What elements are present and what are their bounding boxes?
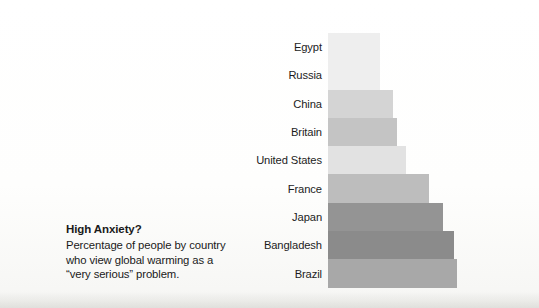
bar-row: France	[0, 174, 328, 202]
bar-russia	[328, 61, 380, 89]
scan-edge-shadow	[0, 292, 539, 308]
bar-row: Russia	[0, 61, 328, 89]
bar-label-united-states: United States	[0, 154, 328, 166]
caption-line-3: “very serious” problem.	[66, 267, 241, 282]
chart-figure: Egypt Russia China Britain United States	[0, 0, 539, 308]
bar-label-russia: Russia	[0, 69, 328, 81]
bar-label-china: China	[0, 98, 328, 110]
caption-line-1: Percentage of people by country	[66, 238, 241, 253]
bar-row: Britain	[0, 118, 328, 146]
caption-block: High Anxiety? Percentage of people by co…	[66, 222, 241, 282]
bar-france	[328, 174, 429, 202]
bar-label-egypt: Egypt	[0, 41, 328, 53]
bar-egypt	[328, 33, 380, 61]
bar-row: United States	[0, 146, 328, 174]
bar-britain	[328, 118, 397, 146]
bar-brazil	[328, 259, 457, 287]
bar-row: China	[0, 90, 328, 118]
bar-china	[328, 90, 393, 118]
bar-bangladesh	[328, 231, 454, 259]
chart-title: High Anxiety?	[66, 222, 241, 237]
bar-row: Egypt	[0, 33, 328, 61]
caption-line-2: who view global warming as a	[66, 253, 241, 268]
bar-label-britain: Britain	[0, 126, 328, 138]
bar-label-france: France	[0, 183, 328, 195]
bar-japan	[328, 203, 443, 231]
bar-united-states	[328, 146, 406, 174]
